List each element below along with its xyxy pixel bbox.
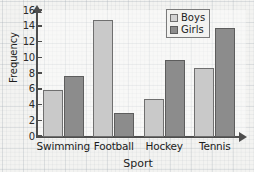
x-axis-label-tennis: Tennis <box>184 140 247 152</box>
legend-label-girls: Girls <box>181 24 204 35</box>
bar-football-girls <box>114 113 134 137</box>
y-axis-tick-label: 8 <box>29 68 38 79</box>
y-axis-tick-label: 12 <box>23 36 38 47</box>
y-axis-tick-label: 10 <box>23 52 38 63</box>
y-axis-tick: 14 <box>0 20 42 31</box>
y-axis-tick-label: 2 <box>29 115 38 126</box>
bar-swimming-girls <box>64 76 84 137</box>
y-axis-tick: 10 <box>0 52 42 63</box>
x-axis-title: Sport <box>36 157 240 170</box>
y-axis-tick: 12 <box>0 36 42 47</box>
legend-swatch-girls <box>170 26 178 34</box>
bar-hockey-girls <box>165 60 185 137</box>
chart-legend: BoysGirls <box>166 9 210 38</box>
bar-swimming-boys <box>43 90 63 137</box>
y-axis-tick-label: 6 <box>29 83 38 94</box>
y-axis-tick: 4 <box>0 99 42 110</box>
bar-chart-figure: 0246810121416 Frequency Sport SwimmingFo… <box>0 0 254 172</box>
y-axis-tick: 8 <box>0 68 42 79</box>
legend-swatch-boys <box>170 14 178 22</box>
y-axis-tick-label: 14 <box>23 20 38 31</box>
y-axis-tick: 2 <box>0 115 42 126</box>
y-axis-tick-label: 16 <box>23 5 38 16</box>
bar-hockey-boys <box>144 99 164 137</box>
y-axis-tick-label: 4 <box>29 99 38 110</box>
bar-football-boys <box>93 20 113 137</box>
y-axis-title: Frequency <box>8 18 19 98</box>
legend-label-boys: Boys <box>181 12 205 23</box>
bar-tennis-boys <box>194 68 214 137</box>
y-axis-tick: 6 <box>0 83 42 94</box>
legend-item-boys: Boys <box>170 12 205 23</box>
bar-tennis-girls <box>215 28 235 137</box>
y-axis-tick: 16 <box>0 5 42 16</box>
legend-item-girls: Girls <box>170 24 205 35</box>
